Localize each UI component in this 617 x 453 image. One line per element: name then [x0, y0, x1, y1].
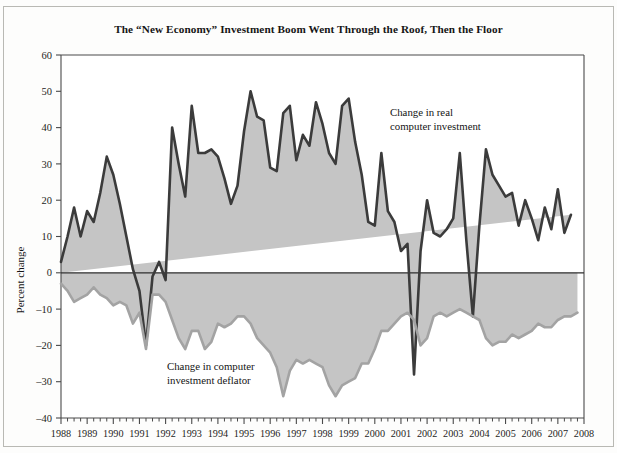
y-tick-label: 60	[42, 50, 53, 61]
x-tick-label: 1999	[338, 428, 358, 439]
y-tick-label: 0	[47, 267, 52, 278]
chart-plot: 6050403020100–10–20–30–40198819891990199…	[0, 0, 617, 453]
x-tick-label: 2005	[495, 428, 515, 439]
x-tick-label: 1990	[103, 428, 123, 439]
x-tick-label: 2007	[548, 428, 568, 439]
x-tick-label: 1988	[51, 428, 71, 439]
x-tick-label: 2006	[522, 428, 542, 439]
series-fills	[61, 55, 584, 418]
y-tick-label: 20	[42, 195, 53, 206]
x-tick-label: 2000	[365, 428, 385, 439]
x-tick-label: 1998	[312, 428, 332, 439]
x-tick-label: 1996	[260, 428, 280, 439]
x-tick-label: 2002	[417, 428, 437, 439]
x-tick-label: 1994	[208, 428, 228, 439]
x-tick-label: 2001	[391, 428, 411, 439]
y-tick-label: –20	[35, 340, 52, 351]
y-tick-label: 40	[42, 122, 53, 133]
x-tick-label: 2003	[443, 428, 463, 439]
x-tick-label: 1995	[234, 428, 254, 439]
x-tick-label: 1989	[77, 428, 97, 439]
x-tick-label: 2004	[469, 428, 489, 439]
y-tick-label: 30	[42, 159, 53, 170]
x-tick-label: 1993	[182, 428, 202, 439]
x-tick-label: 1991	[129, 428, 149, 439]
y-tick-label: –30	[35, 376, 52, 387]
x-tick-label: 1997	[286, 428, 306, 439]
y-axis-title: Percent change	[14, 246, 26, 313]
x-tick-label: 2008	[574, 428, 594, 439]
y-tick-label: 50	[42, 86, 53, 97]
y-tick-label: –10	[35, 304, 52, 315]
annotation-deflator-line1: Change in computer	[167, 360, 255, 372]
annotation-deflator-line2: investment deflator	[167, 374, 251, 386]
annotation-real-investment-line1: Change in real	[390, 106, 453, 118]
x-tick-label: 1992	[155, 428, 175, 439]
chart-figure: The “New Economy” Investment Boom Went T…	[0, 0, 617, 453]
y-tick-label: –40	[35, 413, 52, 424]
y-tick-label: 10	[42, 231, 53, 242]
annotation-real-investment-line2: computer investment	[390, 120, 481, 132]
